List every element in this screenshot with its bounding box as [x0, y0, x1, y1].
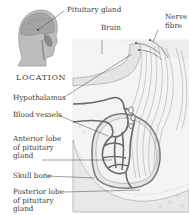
label-hypothalamus: Hypothalamus	[13, 94, 66, 103]
label-blood-vessels: Blood vessels	[13, 111, 62, 120]
pituitary-diagram	[0, 0, 189, 215]
label-anterior-lobe: Anterior lobe of pituitary gland	[13, 135, 61, 161]
label-nerve-fibre-line-2: fibre	[165, 22, 187, 31]
cross-section-panel	[73, 39, 189, 212]
label-brain: Brain	[101, 24, 121, 33]
label-posterior-lobe-line-3: gland	[13, 205, 64, 214]
label-anterior-lobe-line-3: gland	[13, 152, 61, 161]
location-caption: LOCATION	[16, 73, 66, 82]
head-silhouette	[18, 10, 64, 66]
label-nerve-fibre: Nerve fibre	[165, 13, 187, 30]
label-pituitary-gland: Pituitary gland	[67, 6, 121, 15]
label-skull-bone: Skull bone	[13, 172, 52, 181]
label-posterior-lobe: Posterior lobe of pituitary gland	[13, 188, 64, 214]
